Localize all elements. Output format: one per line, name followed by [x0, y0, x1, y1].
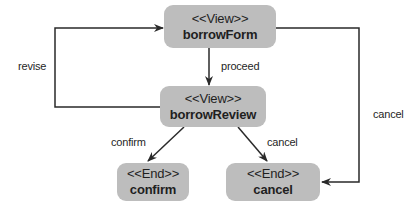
- node-stereotype: <<View>>: [185, 91, 242, 107]
- node-name: borrowForm: [183, 27, 258, 43]
- label-cancel-review: cancel: [267, 136, 298, 148]
- node-name: confirm: [130, 182, 176, 198]
- node-borrow-form: <<View>> borrowForm: [164, 5, 276, 48]
- edge-revise: [55, 28, 163, 107]
- node-stereotype: <<End>>: [247, 166, 299, 182]
- label-proceed: proceed: [221, 60, 259, 72]
- node-name: cancel: [253, 182, 292, 198]
- node-borrow-review: <<View>> borrowReview: [160, 86, 266, 127]
- node-end-confirm: <<End>> confirm: [117, 163, 189, 201]
- label-cancel-form: cancel: [373, 108, 404, 120]
- label-revise: revise: [18, 60, 46, 72]
- node-stereotype: <<End>>: [127, 166, 179, 182]
- label-confirm: confirm: [111, 136, 146, 148]
- node-stereotype: <<View>>: [192, 11, 249, 27]
- node-end-cancel: <<End>> cancel: [226, 163, 320, 201]
- node-name: borrowReview: [170, 107, 256, 123]
- edge-cancel-review: [238, 127, 267, 161]
- edge-cancel-form: [276, 28, 359, 182]
- edge-confirm: [148, 127, 184, 161]
